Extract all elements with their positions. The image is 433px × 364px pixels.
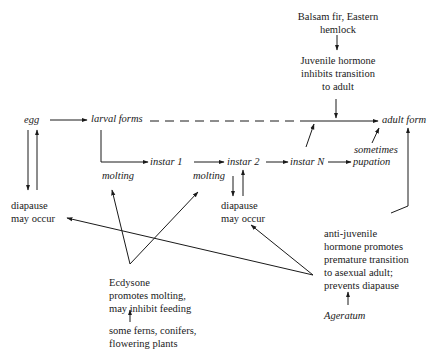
diapause-mid: diapause may occur (221, 199, 265, 225)
insect-development-diagram: egg larval forms adult form Balsam fir, … (0, 0, 433, 364)
label-molting-2: molting (193, 169, 225, 182)
anti-juvenile-label: anti-juvenile hormone promotes premature… (324, 227, 409, 292)
source-balsam-fir: Balsam fir, Eastern hemlock (288, 10, 388, 36)
juvenile-hormone-label: Juvenile hormone inhibits transition to … (288, 54, 388, 93)
node-egg: egg (24, 113, 39, 126)
label-molting-1: molting (102, 169, 134, 182)
label-sometimes: sometimes (354, 143, 398, 156)
node-larval-forms: larval forms (91, 112, 143, 125)
node-instar-1: instar 1 (150, 155, 182, 168)
node-instar-n: instar N (290, 155, 324, 168)
node-pupation: pupation (353, 155, 390, 168)
node-adult-form: adult form (382, 113, 426, 126)
ecdysone-source: some ferns, conifers, flowering plants (109, 324, 196, 350)
source-ageratum: Ageratum (324, 309, 365, 322)
ecdysone-label: Ecdysone promotes molting, may inhibit f… (109, 276, 191, 315)
node-instar-2: instar 2 (227, 155, 259, 168)
diapause-left: diapause may occur (11, 199, 55, 225)
